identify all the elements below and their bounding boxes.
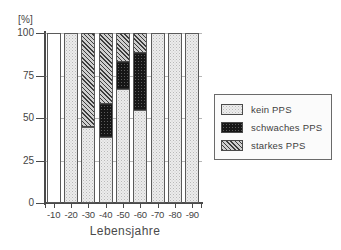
x-tick-label-minus60: -60 (132, 209, 149, 220)
bar-segment-kein-pps (134, 110, 146, 204)
solid-black-swatch-icon (221, 122, 243, 133)
bar-minus90[interactable] (185, 33, 199, 203)
legend: kein PPS schwaches PPS starkes PPS (214, 94, 332, 160)
x-tick-minus50 (123, 203, 124, 208)
diagonal-hatch-swatch-icon (221, 140, 243, 151)
x-tick-boundary-0 (45, 203, 46, 208)
bar-minus50[interactable] (116, 33, 130, 203)
x-tick-label-minus90: -90 (184, 209, 201, 220)
y-tick-label-0: 0 (4, 197, 34, 208)
bar-segment-kein-pps (169, 33, 181, 203)
x-tick-label-minus70: -70 (149, 209, 166, 220)
bar-segment-schwaches-pps (134, 53, 146, 109)
x-tick-minus10 (54, 203, 55, 208)
legend-item-schwaches-pps[interactable]: schwaches PPS (221, 118, 325, 136)
bar-segment-starkes-pps (100, 33, 112, 104)
plot-area (45, 33, 201, 203)
y-tick-25 (36, 161, 45, 162)
stacked-bar-chart-figure: [%] 100 75 50 25 0 -10-20-30-40-50-60-70… (0, 0, 341, 250)
bar-segment-kein-pps (152, 33, 164, 203)
x-tick-label-minus10: -10 (45, 209, 62, 220)
x-tick-minus90 (192, 203, 193, 208)
x-tick-minus70 (158, 203, 159, 208)
y-tick-75 (36, 76, 45, 77)
y-tick-label-100: 100 (4, 27, 34, 38)
legend-label-starkes-pps: starkes PPS (251, 140, 305, 151)
legend-item-kein-pps[interactable]: kein PPS (221, 100, 325, 118)
y-tick-100 (36, 33, 45, 34)
x-tick-minus40 (106, 203, 107, 208)
bar-segment-starkes-pps (117, 33, 129, 62)
x-axis-title: Lebensjahre (0, 224, 250, 238)
x-tick-minus20 (71, 203, 72, 208)
x-tick-minus80 (175, 203, 176, 208)
legend-label-schwaches-pps: schwaches PPS (251, 122, 322, 133)
bar-empty-minus10 (47, 33, 61, 203)
legend-label-kein-pps: kein PPS (251, 104, 292, 115)
x-tick-label-minus80: -80 (166, 209, 183, 220)
x-tick-boundary-9 (201, 203, 202, 208)
x-tick-label-minus20: -20 (62, 209, 79, 220)
x-tick-label-minus50: -50 (114, 209, 131, 220)
x-tick-label-minus30: -30 (80, 209, 97, 220)
bar-minus70[interactable] (151, 33, 165, 203)
bar-segment-kein-pps (117, 89, 129, 203)
x-tick-minus60 (140, 203, 141, 208)
bar-minus80[interactable] (168, 33, 182, 203)
bar-segment-schwaches-pps (100, 104, 112, 136)
bar-segment-starkes-pps (82, 33, 94, 127)
bar-minus40[interactable] (99, 33, 113, 203)
bar-segment-schwaches-pps (117, 62, 129, 89)
bar-segment-kein-pps (100, 137, 112, 203)
x-tick-label-minus40: -40 (97, 209, 114, 220)
light-dotted-swatch-icon (221, 104, 243, 115)
y-tick-0 (36, 203, 45, 204)
bar-segment-kein-pps (65, 33, 77, 203)
x-tick-minus30 (88, 203, 89, 208)
y-axis-unit-label: [%] (18, 14, 33, 25)
y-tick-label-25: 25 (4, 155, 34, 166)
bar-segment-kein-pps (82, 127, 94, 204)
legend-item-starkes-pps[interactable]: starkes PPS (221, 136, 325, 154)
bar-segment-kein-pps (186, 33, 198, 203)
bar-minus20[interactable] (64, 33, 78, 203)
y-tick-label-50: 50 (4, 112, 34, 123)
y-tick-label-75: 75 (4, 70, 34, 81)
x-tick-labels: -10-20-30-40-50-60-70-80-90 (45, 209, 201, 223)
bar-minus60[interactable] (133, 33, 147, 203)
bar-segment-starkes-pps (134, 33, 146, 53)
bar-minus30[interactable] (81, 33, 95, 203)
y-tick-50 (36, 118, 45, 119)
